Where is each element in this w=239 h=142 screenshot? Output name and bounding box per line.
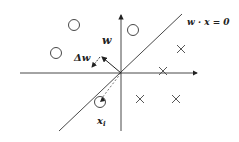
weight-vector-label: w [102,34,112,47]
class-circle-point [69,20,80,31]
class-cross-point [136,95,144,103]
sample-projection-line [102,73,121,98]
weight-vector-arrow [102,57,121,73]
class-cross-point [172,95,180,103]
class-cross-point [159,67,167,75]
class-circle-point [128,25,139,36]
weight-update-arrow [92,57,100,67]
class-cross-point [177,45,185,53]
decision-boundary-label: w · x = 0 [187,17,230,27]
weight-update-label: Δw [73,52,91,63]
perceptron-diagram: w Δw w · x = 0 xi [0,0,239,142]
class-circle-point [51,48,62,59]
sample-marker-wedge [100,97,105,102]
sample-label: xi [96,115,106,128]
